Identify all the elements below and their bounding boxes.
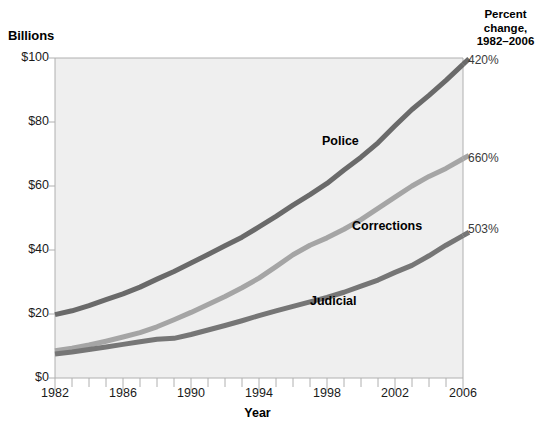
percent-change-value: 420%	[468, 53, 499, 67]
y-axis-tick-label: $0	[5, 370, 49, 384]
y-axis-tick-label: $60	[5, 178, 49, 192]
x-axis-tick-label: 2006	[449, 386, 477, 400]
x-axis-tick-label: 1994	[245, 386, 273, 400]
percent-change-header: Percent change, 1982–2006	[466, 8, 545, 49]
plot-area-background	[55, 58, 463, 378]
x-axis-tick-label: 1982	[41, 386, 69, 400]
percent-change-header-line1: Percent	[466, 8, 545, 22]
x-axis-title-text: Year	[244, 406, 270, 420]
x-axis-tick-label: 2002	[381, 386, 409, 400]
percent-change-value: 503%	[468, 222, 499, 236]
y-axis-title: Billions	[8, 28, 54, 43]
percent-change-value: 660%	[468, 151, 499, 165]
x-axis-title: Year	[0, 406, 545, 420]
series-label-judicial: Judicial	[310, 294, 357, 308]
x-axis-tick-label: 1986	[109, 386, 137, 400]
series-label-corrections: Corrections	[352, 219, 422, 233]
y-axis-tick-label: $40	[5, 242, 49, 256]
line-chart: Billions Percent change, 1982–2006 $0$20…	[0, 0, 545, 435]
percent-change-header-line3: 1982–2006	[466, 35, 545, 49]
x-axis-tick-label: 1998	[313, 386, 341, 400]
y-axis-tick-label: $20	[5, 306, 49, 320]
y-axis-tick-label: $100	[5, 50, 49, 64]
percent-change-header-line2: change,	[466, 22, 545, 36]
plot-canvas	[0, 0, 545, 435]
y-axis-tick-label: $80	[5, 114, 49, 128]
x-axis-tick-label: 1990	[177, 386, 205, 400]
series-label-police: Police	[322, 134, 359, 148]
